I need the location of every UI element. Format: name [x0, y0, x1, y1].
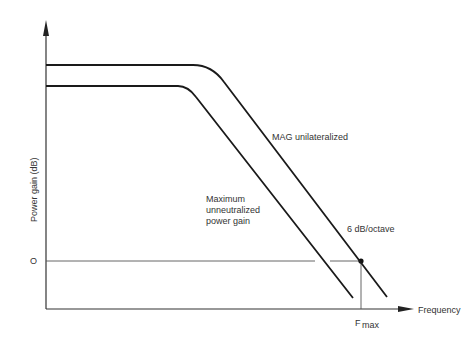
mag-unilateralized-curve [46, 65, 387, 297]
fmax-label: F [355, 318, 361, 328]
y-axis-arrow-icon [43, 20, 49, 36]
unneutralized-label-3: power gain [206, 216, 250, 226]
zero-tick-label: O [30, 256, 37, 266]
x-axis-arrow-icon [398, 306, 414, 312]
slope-label: 6 dB/octave [347, 224, 395, 234]
x-axis-label: Frequency [418, 305, 461, 315]
unneutralized-label-1: Maximum [206, 194, 245, 204]
y-axis-label: Power gain (dB) [29, 157, 39, 222]
fmax-subscript: max [362, 320, 380, 330]
power-gain-diagram: Power gain (dB) O Frequency F max MAG un… [0, 0, 475, 338]
unneutralized-label-2: unneutralized [206, 205, 260, 215]
mag-label: MAG unilateralized [272, 132, 348, 142]
